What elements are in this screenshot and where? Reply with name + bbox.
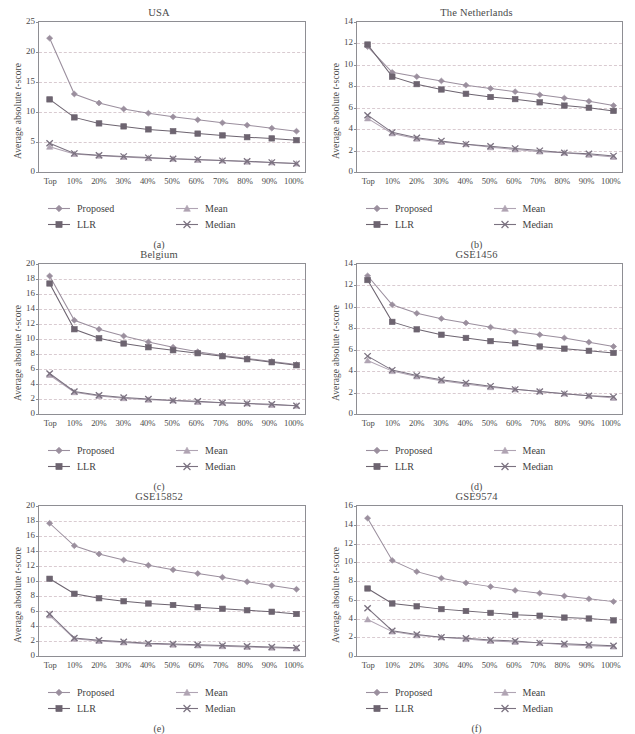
legend-item-llr[interactable]: LLR (364, 461, 492, 472)
legend-item-mean[interactable]: Mean (174, 445, 302, 456)
legend-item-llr[interactable]: LLR (46, 703, 174, 714)
legend-label: Median (205, 461, 236, 472)
legend-label: Median (523, 461, 554, 472)
y-tick-label: 16 (26, 531, 35, 540)
x-tick-label: 80% (550, 176, 574, 186)
legend-marker-square-icon (46, 703, 72, 714)
legend-item-mean[interactable]: Mean (174, 687, 302, 698)
legend-item-llr[interactable]: LLR (364, 703, 492, 714)
y-tick-label: 0 (31, 651, 36, 660)
y-tick-label: 6 (349, 102, 354, 111)
chart-panel-a: USAAverage absolute t-score0510152025Top… (0, 0, 318, 242)
legend-item-proposed[interactable]: Proposed (46, 687, 174, 698)
panel-title: The Netherlands (318, 0, 635, 21)
y-tick-label: 16 (344, 501, 353, 510)
y-tick-label: 4 (349, 124, 354, 133)
legend-marker-square-icon (364, 219, 390, 230)
y-tick-label: 14 (26, 546, 35, 555)
x-tick-label: 20% (87, 660, 111, 670)
legend-item-mean[interactable]: Mean (492, 203, 620, 214)
legend-label: Median (523, 219, 554, 230)
legend-item-proposed[interactable]: Proposed (364, 687, 492, 698)
x-tick-label: 60% (184, 660, 208, 670)
legend-item-proposed[interactable]: Proposed (46, 445, 174, 456)
x-tick-label: 30% (429, 660, 453, 670)
y-tick-label: 0 (349, 409, 354, 418)
legend-item-proposed[interactable]: Proposed (46, 203, 174, 214)
legend-label: Proposed (395, 203, 432, 214)
x-tick-label: 100% (599, 418, 623, 428)
legend-item-mean[interactable]: Mean (174, 203, 302, 214)
chart-legend: ProposedMeanLLRMedian (364, 203, 619, 230)
x-tick-label: 50% (477, 176, 501, 186)
legend-item-median[interactable]: Median (174, 703, 302, 714)
y-tick-label: 8 (31, 349, 36, 358)
legend-marker-diamond-icon (46, 445, 72, 456)
y-axis-ticks: 02468101214161820 (16, 505, 38, 657)
chart-legend: ProposedMeanLLRMedian (364, 445, 619, 472)
panel-title: Belgium (0, 242, 318, 263)
legend-item-llr[interactable]: LLR (46, 461, 174, 472)
y-tick-label: 8 (349, 576, 354, 585)
plot-area (38, 263, 306, 415)
y-tick-label: 10 (344, 59, 353, 68)
chart-panel-f: GSE9574Average absolute t-score024681012… (318, 484, 635, 726)
y-tick-label: 0 (31, 409, 36, 418)
legend-item-llr[interactable]: LLR (364, 219, 492, 230)
y-tick-label: 18 (26, 274, 35, 283)
legend-marker-square-icon (46, 219, 72, 230)
legend-item-median[interactable]: Median (492, 219, 620, 230)
legend-marker-cross-icon (492, 461, 518, 472)
plot-area (38, 21, 306, 173)
x-axis-ticks: Top10%20%30%40%50%60%70%80%90%100% (356, 657, 623, 676)
y-tick-label: 20 (26, 501, 35, 510)
y-tick-label: 0 (349, 651, 354, 660)
legend-item-proposed[interactable]: Proposed (364, 203, 492, 214)
y-tick-label: 2 (31, 636, 36, 645)
y-tick-label: 2 (349, 387, 354, 396)
x-tick-label: 50% (160, 176, 184, 186)
legend-item-mean[interactable]: Mean (492, 445, 620, 456)
chart-legend: ProposedMeanLLRMedian (46, 203, 302, 230)
y-tick-label: 12 (344, 280, 353, 289)
panel-caption: (f) (318, 723, 635, 734)
panel-title: GSE15852 (0, 484, 318, 505)
y-tick-label: 14 (344, 259, 353, 268)
y-axis-ticks: 02468101214 (334, 21, 356, 173)
y-axis-label: Average absolute t-score (0, 21, 16, 173)
legend-marker-cross-icon (492, 219, 518, 230)
x-axis-ticks: Top10%20%30%40%50%60%70%80%90%100% (38, 415, 306, 434)
x-tick-label: Top (356, 418, 380, 428)
plot-area (38, 505, 306, 657)
y-tick-label: 10 (344, 301, 353, 310)
x-tick-label: Top (38, 660, 62, 670)
legend-label: Mean (205, 445, 228, 456)
y-tick-mark (36, 656, 39, 657)
x-tick-label: 80% (233, 660, 257, 670)
y-tick-label: 18 (26, 516, 35, 525)
plot-area (356, 21, 623, 173)
x-tick-label: 30% (429, 418, 453, 428)
x-tick-label: 60% (502, 660, 526, 670)
y-tick-label: 4 (31, 621, 36, 630)
y-tick-label: 20 (26, 259, 35, 268)
y-tick-label: 8 (349, 323, 354, 332)
legend-item-mean[interactable]: Mean (492, 687, 620, 698)
y-axis-label: Average absolute t-score (0, 263, 16, 415)
legend-item-median[interactable]: Median (174, 461, 302, 472)
legend-item-median[interactable]: Median (174, 219, 302, 230)
legend-item-llr[interactable]: LLR (46, 219, 174, 230)
x-tick-label: 50% (477, 660, 501, 670)
y-tick-label: 8 (31, 591, 36, 600)
chart-panel-d: GSE1456Average absolute t-score024681012… (318, 242, 635, 484)
legend-label: Mean (205, 203, 228, 214)
legend-item-median[interactable]: Median (492, 461, 620, 472)
x-tick-label: 60% (502, 176, 526, 186)
y-tick-label: 2 (31, 394, 36, 403)
y-axis-ticks: 0246810121416 (334, 505, 356, 657)
legend-item-proposed[interactable]: Proposed (364, 445, 492, 456)
series-lines (39, 264, 305, 414)
legend-item-median[interactable]: Median (492, 703, 620, 714)
x-tick-label: 70% (526, 660, 550, 670)
x-tick-label: 10% (380, 418, 404, 428)
